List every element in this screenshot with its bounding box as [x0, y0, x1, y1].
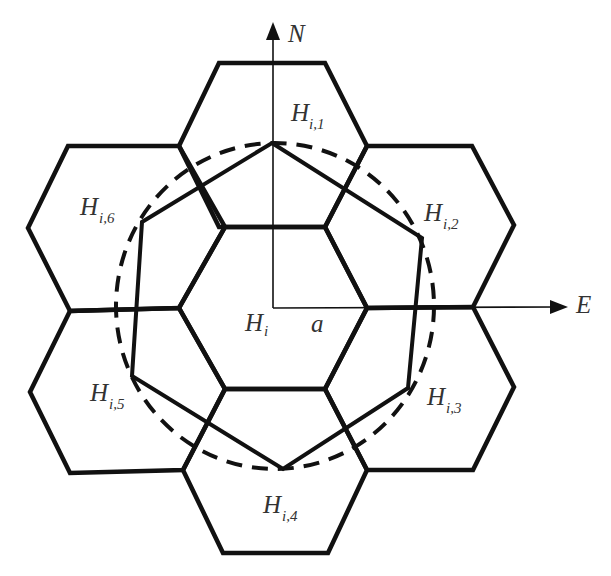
east-label: E [575, 291, 591, 318]
label-center-cell: H i [244, 309, 268, 339]
cell-4-subscript: i,4 [282, 508, 298, 524]
radius-label: a [311, 310, 324, 337]
cell-5-subscript: i,5 [109, 396, 125, 412]
label-cell-5: H i,5 [89, 379, 125, 412]
label-cell-3: H i,3 [426, 383, 461, 416]
north-arrowhead-icon [266, 22, 280, 40]
center-cell-label: H [244, 309, 265, 336]
cell-6-subscript: i,6 [99, 210, 115, 226]
hexagon-south-west [30, 308, 225, 473]
cell-6-label: H [79, 193, 100, 220]
cell-2-label: H [423, 199, 444, 226]
center-cell-subscript: i [264, 323, 268, 339]
cell-2-subscript: i,2 [443, 216, 459, 232]
label-cell-4: H i,4 [262, 491, 298, 524]
hex-neighborhood-diagram: N E a H i H i,1 H i,2 H i,3 H i,4 H i,5 … [0, 0, 611, 576]
label-cell-1: H i,1 [290, 99, 324, 132]
north-label: N [287, 20, 306, 47]
east-arrowhead-icon [550, 300, 568, 314]
cell-1-label: H [290, 99, 311, 126]
label-cell-2: H i,2 [423, 199, 459, 232]
cell-3-label: H [426, 383, 447, 410]
east-axis [273, 307, 556, 308]
label-cell-6: H i,6 [79, 193, 115, 226]
cell-4-label: H [262, 491, 283, 518]
cell-3-subscript: i,3 [446, 400, 461, 416]
cell-5-label: H [89, 379, 110, 406]
cell-1-subscript: i,1 [309, 116, 324, 132]
hexagon-north-west [28, 146, 225, 311]
